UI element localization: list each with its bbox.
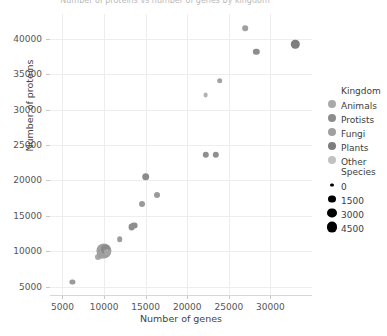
legend-item[interactable]: Protists [327, 111, 387, 125]
gridline-vertical [187, 14, 188, 295]
data-point [139, 201, 145, 207]
legend-item-label: Fungi [341, 129, 365, 139]
legend-marker-icon [328, 100, 336, 108]
gridline-vertical [62, 14, 63, 295]
legend-marker-icon [330, 183, 333, 186]
y-axis-tick [46, 251, 50, 252]
legend-item[interactable]: Animals [327, 97, 387, 111]
legend-marker-icon [328, 142, 336, 150]
data-point [202, 152, 208, 158]
y-axis-tick [46, 110, 50, 111]
x-axis-label: Number of genes [50, 313, 312, 324]
y-axis-tick [46, 39, 50, 40]
legend-item[interactable]: Fungi [327, 125, 387, 139]
gridline-vertical [229, 14, 230, 295]
scatter-chart-figure: Number of proteins vs number of genes by… [0, 0, 387, 336]
data-point [131, 222, 138, 229]
gridline-horizontal [50, 145, 312, 146]
y-tick-label: 15000 [13, 211, 42, 221]
y-axis-tick [46, 145, 50, 146]
data-point [253, 48, 259, 54]
legend-marker-icon [327, 208, 336, 217]
y-axis-tick [46, 216, 50, 217]
y-tick-label: 10000 [13, 246, 42, 256]
gridline-horizontal [50, 39, 312, 40]
legend-marker-icon [328, 156, 336, 164]
legend-item[interactable]: Plants [327, 139, 387, 153]
x-tick-label: 10000 [90, 302, 119, 312]
data-point [154, 192, 160, 198]
legend-marker-icon [327, 222, 338, 233]
legend-item[interactable]: 4500 [327, 220, 387, 234]
gridline-horizontal [50, 216, 312, 217]
data-point [117, 236, 123, 242]
gridline-horizontal [50, 251, 312, 252]
y-axis-label: Number of proteins [24, 31, 35, 181]
x-tick-label: 25000 [214, 302, 243, 312]
gridline-vertical [270, 14, 271, 295]
chart-legend: KingdomAnimalsProtistsFungiPlantsOtherSp… [327, 86, 387, 234]
legend-item[interactable]: 0 [327, 178, 387, 192]
x-tick-label: 30000 [256, 302, 285, 312]
y-axis-tick [46, 74, 50, 75]
legend-item-label: Protists [341, 115, 374, 125]
data-point [212, 152, 218, 158]
data-point [70, 280, 75, 285]
legend-item-label: Plants [341, 143, 368, 153]
legend-item[interactable]: 1500 [327, 192, 387, 206]
gridline-horizontal [50, 110, 312, 111]
legend-item-label: 3000 [341, 210, 364, 220]
legend-item-label: 1500 [341, 196, 364, 206]
data-point [142, 173, 150, 181]
legend-item-label: 4500 [341, 224, 364, 234]
legend-item[interactable]: 3000 [327, 206, 387, 220]
legend-marker-icon [328, 114, 336, 122]
chart-title: Number of proteins vs number of genes by… [0, 0, 330, 5]
legend-item-label: 0 [341, 182, 347, 192]
y-tick-label: 5000 [19, 282, 42, 292]
legend-item[interactable]: Other [327, 153, 387, 167]
legend-marker-icon [328, 128, 336, 136]
legend-title-species: Species [341, 167, 387, 177]
legend-item-label: Other [341, 157, 367, 167]
plot-area: 50001000015000200002500030000 5000100001… [50, 14, 312, 295]
y-axis-tick [46, 180, 50, 181]
x-tick-label: 15000 [131, 302, 160, 312]
gridline-horizontal [50, 180, 312, 181]
data-point [104, 249, 110, 255]
gridline-horizontal [50, 74, 312, 75]
legend-item-label: Animals [341, 101, 377, 111]
legend-title-kingdom: Kingdom [341, 86, 387, 96]
x-tick-label: 5000 [51, 302, 74, 312]
data-point [243, 25, 249, 31]
y-axis-tick [46, 287, 50, 288]
gridline-horizontal [50, 287, 312, 288]
x-tick-label: 20000 [173, 302, 202, 312]
gridline-vertical [146, 14, 147, 295]
data-point [291, 40, 299, 48]
data-point [203, 93, 208, 98]
data-point [217, 78, 223, 84]
x-axis-spine [50, 295, 312, 296]
legend-marker-icon [328, 195, 335, 202]
